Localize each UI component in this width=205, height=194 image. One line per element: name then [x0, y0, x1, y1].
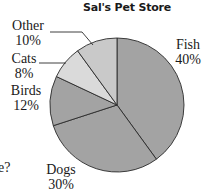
label-birds-name: Birds — [8, 83, 44, 98]
label-birds-value: 12% — [8, 98, 44, 113]
label-cats-name: Cats — [8, 51, 40, 66]
label-other-value: 10% — [6, 33, 50, 48]
label-cats-value: 8% — [8, 66, 40, 81]
label-dogs-value: 30% — [42, 177, 80, 192]
label-cats: Cats 8% — [8, 51, 40, 81]
label-other-name: Other — [6, 18, 50, 33]
label-fish: Fish 40% — [170, 37, 205, 67]
label-dogs-name: Dogs — [42, 162, 80, 177]
label-other: Other 10% — [6, 18, 50, 48]
label-birds: Birds 12% — [8, 83, 44, 113]
label-fish-value: 40% — [170, 52, 205, 67]
leader-line-other — [50, 32, 93, 45]
cropped-text-fragment: e? — [0, 160, 10, 176]
label-fish-name: Fish — [170, 37, 205, 52]
label-dogs: Dogs 30% — [42, 162, 80, 192]
